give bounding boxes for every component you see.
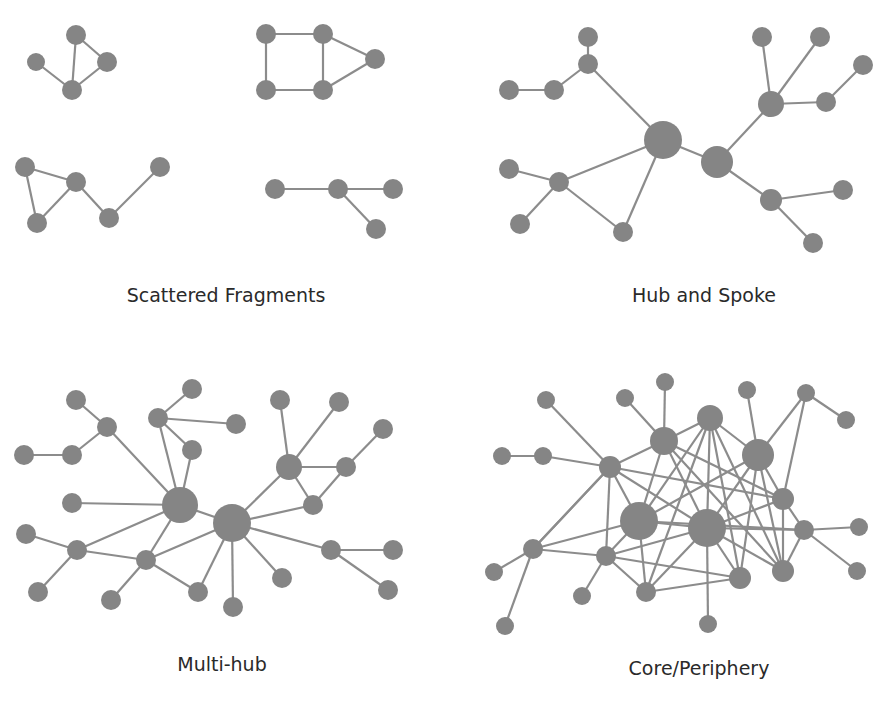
graph-edge [533,549,606,556]
graph-node [365,49,385,69]
graph-node [97,52,117,72]
graph-node [850,518,868,536]
graph-node [27,213,47,233]
graph-edge [331,550,388,590]
graph-node [223,597,243,617]
graph-node [596,546,616,566]
graph-edge [646,578,740,592]
graph-node [636,582,656,602]
graph-node [378,580,398,600]
panel-core-periphery [485,373,868,635]
graph-edge [533,467,610,549]
graph-node [303,495,323,515]
graph-node [496,617,514,635]
graph-edge [109,167,160,218]
label-core-periphery: Core/Periphery [629,657,770,679]
edges-scattered [25,34,393,229]
graph-node [383,179,403,199]
graph-node [578,27,598,47]
graph-node [276,454,302,480]
graph-node [729,567,751,589]
graph-node [797,384,815,402]
panel-hub-and-spoke [499,27,873,253]
graph-node [66,172,86,192]
graph-node [650,427,678,455]
edges-core-periphery [494,382,859,626]
hub-node [620,502,658,540]
graph-node [62,493,82,513]
graph-node [62,80,82,100]
graph-node [810,27,830,47]
nodes-scattered [15,24,403,239]
graph-node [67,540,87,560]
graph-node [336,457,356,477]
nodes-multi-hub [14,379,403,617]
graph-node [803,233,823,253]
nodes-core-periphery [485,373,868,635]
graph-node [373,419,393,439]
hub-node [742,439,774,471]
graph-node [27,53,45,71]
graph-node [66,25,86,45]
graph-node [613,222,633,242]
panel-scattered-fragments [15,24,403,239]
graph-node [226,414,246,434]
graph-node [499,159,519,179]
hub-node [162,487,198,523]
graph-node [794,520,814,540]
hub-node [701,146,733,178]
label-scattered-fragments: Scattered Fragments [127,284,326,306]
label-multi-hub: Multi-hub [177,653,266,675]
graph-node [62,445,82,465]
label-hub-and-spoke: Hub and Spoke [632,284,776,306]
graph-node [66,390,86,410]
graph-node [328,179,348,199]
graph-edge [158,418,236,424]
graph-node [816,92,836,112]
graph-edge [77,550,146,560]
graph-node [738,381,756,399]
graph-node [544,80,564,100]
graph-node [188,582,208,602]
graph-edge [606,467,610,556]
hub-node [644,121,682,159]
graph-node [833,180,853,200]
graph-node [28,582,48,602]
graph-node [321,540,341,560]
graph-node [837,411,855,429]
graph-node [656,373,674,391]
graph-node [16,524,36,544]
graph-node [510,214,530,234]
graph-node [148,408,168,428]
graph-node [256,24,276,44]
graph-node [97,417,117,437]
graph-node [758,91,784,117]
graph-node [599,456,621,478]
graph-node [313,24,333,44]
hub-node [688,509,726,547]
graph-edge [758,455,783,571]
graph-node [493,447,511,465]
graph-node [256,80,276,100]
graph-node [534,447,552,465]
graph-node [366,219,386,239]
graph-node [272,568,292,588]
graph-node [578,54,598,74]
graph-node [752,27,772,47]
graph-node [699,615,717,633]
graph-edge [505,549,533,626]
hub-node [213,504,251,542]
graph-node [772,560,794,582]
graph-node [485,563,503,581]
graph-node [853,55,873,75]
graph-node [616,389,634,407]
graph-node [265,179,285,199]
graph-node [313,80,333,100]
graph-edge [559,182,623,232]
graph-edge [804,530,857,571]
panel-multi-hub [14,379,403,617]
graph-node [14,445,34,465]
graph-node [15,157,35,177]
graph-node [150,157,170,177]
graph-node [99,208,119,228]
